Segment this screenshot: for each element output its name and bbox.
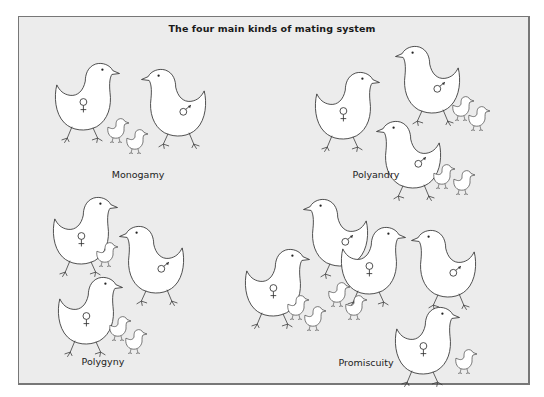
chick: [469, 107, 490, 131]
chick: [108, 119, 129, 143]
female-bird: [245, 249, 309, 328]
chick: [126, 330, 147, 354]
male-bird: [412, 230, 476, 309]
chick: [454, 171, 475, 195]
chick: [127, 130, 148, 154]
female-bird: [395, 307, 459, 386]
panel-promiscuity: Promiscuity: [245, 199, 477, 386]
male-bird: [396, 46, 460, 125]
panel-polygyny: Polygyny: [53, 197, 183, 367]
chick: [305, 307, 326, 331]
female-bird: [53, 197, 117, 276]
panel-label-polygyny: Polygyny: [82, 356, 125, 367]
panel-monogamy: Monogamy: [55, 63, 205, 180]
panel-label-monogamy: Monogamy: [112, 169, 165, 180]
male-bird: [142, 69, 206, 148]
panel-polyandry: Polyandry: [315, 46, 490, 200]
female-bird: [58, 277, 122, 356]
chick: [346, 296, 367, 320]
male-bird: [120, 226, 184, 305]
chick: [456, 350, 477, 374]
chick: [329, 283, 350, 307]
mating-systems-illustration: Monogamy Polyandry: [0, 0, 544, 397]
panel-label-polyandry: Polyandry: [353, 169, 400, 180]
male-bird: [377, 121, 441, 200]
female-bird: [315, 72, 379, 151]
panel-label-promiscuity: Promiscuity: [338, 357, 394, 368]
